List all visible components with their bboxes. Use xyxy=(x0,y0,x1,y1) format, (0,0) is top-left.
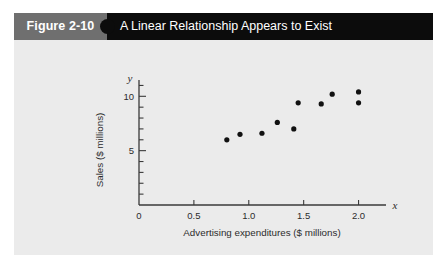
x-tick-label-1.5: 1.5 xyxy=(297,210,310,221)
scatter-plot: 510 y Sales ($ millions) 00.51.01.52.0 x… xyxy=(14,40,433,255)
plot-svg: 510 y Sales ($ millions) 00.51.01.52.0 x… xyxy=(14,40,433,255)
data-point xyxy=(224,137,229,142)
data-point xyxy=(319,101,324,106)
x-tick-label-0: 0 xyxy=(136,210,141,221)
figure-title: A Linear Relationship Appears to Exist xyxy=(120,13,332,40)
x-axis-tick-labels: 00.51.01.52.0 xyxy=(136,210,365,221)
x-axis-ticks xyxy=(194,200,359,205)
y-axis-title: Sales ($ millions) xyxy=(94,113,105,188)
x-axis: 00.51.01.52.0 x Advertising expenditures… xyxy=(136,199,397,238)
data-points xyxy=(224,89,361,142)
y-axis-tick-labels: 510 xyxy=(123,91,134,156)
figure-number-label: Figure 2-10 xyxy=(14,13,107,40)
x-axis-variable-symbol: x xyxy=(392,199,398,211)
data-point xyxy=(275,120,280,125)
y-axis-ticks xyxy=(139,85,146,194)
x-tick-label-1.0: 1.0 xyxy=(242,210,255,221)
figure-container: Figure 2-10 A Linear Relationship Appear… xyxy=(0,0,447,269)
data-point xyxy=(291,126,296,131)
y-tick-label-10: 10 xyxy=(123,91,134,102)
data-point xyxy=(356,100,361,105)
data-point xyxy=(237,132,242,137)
x-tick-label-2.0: 2.0 xyxy=(352,210,365,221)
data-point xyxy=(330,92,335,97)
x-tick-label-0.5: 0.5 xyxy=(187,210,200,221)
data-point xyxy=(356,89,361,94)
figure-body-panel: 510 y Sales ($ millions) 00.51.01.52.0 x… xyxy=(14,40,433,255)
y-tick-label-5: 5 xyxy=(129,145,134,156)
data-point xyxy=(259,131,264,136)
y-axis-variable-symbol: y xyxy=(127,72,133,84)
y-axis: 510 y Sales ($ millions) xyxy=(94,72,146,205)
x-axis-title: Advertising expenditures ($ millions) xyxy=(183,227,340,238)
data-point xyxy=(296,100,301,105)
